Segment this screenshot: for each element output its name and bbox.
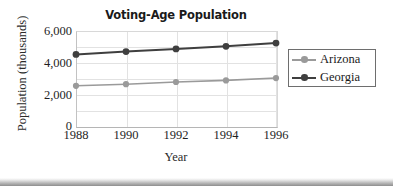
legend-label-georgia: Georgia [320,70,360,85]
chart-legend: Arizona Georgia [288,49,376,87]
legend-label-arizona: Arizona [320,52,360,67]
legend-marker-georgia [292,72,316,83]
legend-item-georgia: Georgia [292,69,360,86]
data-point-georgia [223,43,230,50]
data-point-georgia [173,45,180,52]
chart-figure: Voting-Age Population Population (thousa… [0,0,393,186]
legend-marker-arizona [292,54,316,65]
data-point-arizona [273,75,279,81]
data-point-arizona [123,81,129,87]
data-point-arizona [73,83,79,89]
data-point-georgia [273,40,280,47]
legend-dot-icon [301,56,308,63]
data-point-arizona [223,77,229,83]
legend-dot-icon [301,74,308,81]
data-point-georgia [73,51,80,58]
legend-item-arizona: Arizona [292,51,360,68]
page-bottom-band [0,178,393,186]
series-overlay [0,0,393,186]
data-point-georgia [123,48,130,55]
data-point-arizona [173,79,179,85]
